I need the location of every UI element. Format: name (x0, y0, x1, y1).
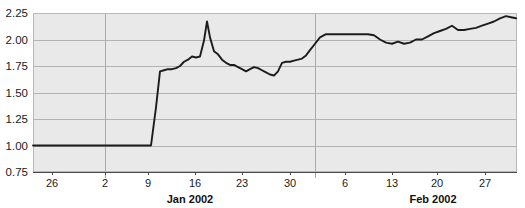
month-labels: Jan 2002Feb 2002 (167, 193, 457, 205)
x-tick-label-9: 27 (479, 177, 491, 189)
month-label-1: Feb 2002 (409, 193, 456, 205)
y-tick-label-0: 0.75 (6, 166, 28, 178)
y-tick-label-2: 1.25 (6, 113, 28, 125)
y-tick-label-1: 1.00 (6, 140, 28, 152)
month-label-0: Jan 2002 (167, 193, 213, 205)
x-axis-ticks: 26291623306132027 (46, 172, 491, 189)
x-tick-label-1: 2 (102, 177, 108, 189)
y-tick-label-3: 1.50 (6, 87, 28, 99)
x-tick-label-4: 23 (236, 177, 248, 189)
chart-canvas: 0.751.001.251.501.752.002.25262916233061… (0, 0, 525, 208)
x-tick-label-6: 6 (342, 177, 348, 189)
x-tick-label-2: 9 (145, 177, 151, 189)
y-axis-labels: 0.751.001.251.501.752.002.25 (6, 7, 28, 178)
y-tick-label-6: 2.25 (6, 7, 28, 19)
x-tick-label-0: 26 (46, 177, 58, 189)
x-tick-label-5: 30 (284, 177, 296, 189)
line-chart: 0.751.001.251.501.752.002.25262916233061… (0, 0, 525, 208)
x-tick-label-8: 20 (431, 177, 443, 189)
y-tick-label-5: 2.00 (6, 34, 28, 46)
x-tick-label-3: 16 (189, 177, 201, 189)
y-tick-label-4: 1.75 (6, 60, 28, 72)
x-tick-label-7: 13 (386, 177, 398, 189)
